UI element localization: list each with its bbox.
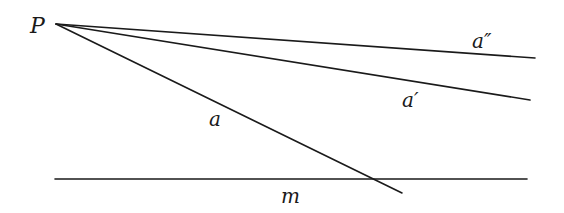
line-a-double-prime	[56, 24, 535, 58]
line-a-double-prime-label: a″	[472, 29, 492, 53]
line-a-prime	[56, 24, 530, 100]
line-a-label: a	[209, 107, 221, 131]
line-a-prime-label: a′	[402, 88, 419, 112]
line-a	[56, 24, 402, 193]
line-m-label: m	[281, 184, 300, 208]
diagram-canvas: P a″ a′ a m	[0, 0, 564, 213]
point-p-label: P	[29, 13, 46, 38]
